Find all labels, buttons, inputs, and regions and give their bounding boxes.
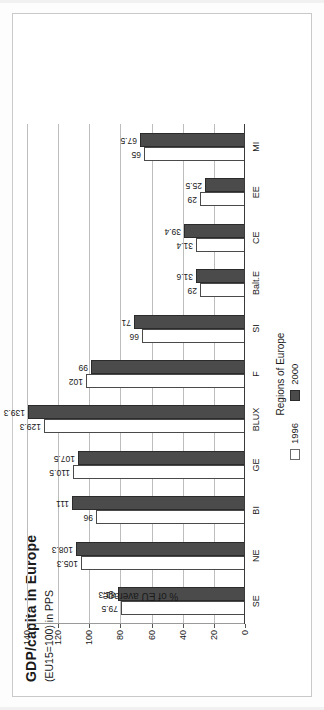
chart-legend: 1996 2000 [289, 364, 300, 460]
rotated-chart-wrapper: GDP/capita in Europe (EU15=100) in PPS 0… [12, 13, 312, 697]
x-axis-category-CE: CE [251, 215, 277, 260]
y-axis-tick-mark [214, 624, 215, 628]
x-axis-category-SI: SI [251, 306, 277, 351]
plot-inner: 020406080100120140 79.581.3105.3108.3961… [27, 124, 245, 624]
plot-area: 020406080100120140 79.581.3105.3108.3961… [27, 124, 245, 624]
bar-value-label: 99 [78, 363, 87, 373]
bar-group: 105.3108.3 [27, 533, 245, 578]
bar-value-label: 111 [56, 499, 69, 509]
bar-value-label: 25.5 [186, 181, 203, 191]
bar-value-label: 29 [187, 195, 196, 205]
x-axis-category-Balt.E: Balt.E [251, 260, 277, 305]
x-axis-category-BLUX: BLUX [251, 397, 277, 442]
bar-group: 6567.5 [27, 124, 245, 169]
bar-value-label: 108.3 [52, 545, 73, 555]
y-axis-tick-label: 100 [84, 630, 94, 645]
y-axis-tick-mark [58, 624, 59, 628]
bar-2000-SI: 71 [134, 315, 245, 329]
y-axis-tick-label: 80 [115, 630, 125, 640]
y-axis-line [27, 623, 245, 624]
bar-2000-Balt.E: 31.6 [196, 269, 245, 283]
bar-1996-Balt.E: 29 [200, 283, 245, 297]
bar-value-label: 107.5 [53, 454, 74, 464]
bar-2000-BLUX: 139.3 [28, 405, 245, 419]
bar-1996-BLUX: 129.3 [44, 419, 245, 433]
bar-value-label: 96 [83, 513, 92, 523]
bar-value-label: 129.3 [19, 422, 40, 432]
scanned-page: GDP/capita in Europe (EU15=100) in PPS 0… [0, 0, 324, 710]
bar-value-label: 39.4 [164, 227, 181, 237]
bar-value-label: 102 [69, 377, 83, 387]
bar-2000-EE: 25.5 [205, 178, 245, 192]
legend-label-1996: 1996 [289, 423, 300, 444]
bar-1996-SI: 66 [142, 329, 245, 343]
legend-item-2000: 2000 [289, 364, 300, 401]
x-axis-category-SE: SE [251, 579, 277, 624]
bar-value-label: 65 [131, 150, 140, 160]
y-axis-tick-label: 0 [240, 630, 250, 635]
x-axis-category-EE: EE [251, 169, 277, 214]
x-axis-category-F: F [251, 351, 277, 396]
bar-2000-BI: 111 [72, 496, 245, 510]
x-axis-category-MI: MI [251, 124, 277, 169]
bar-1996-F: 102 [86, 374, 245, 388]
y-axis-tick-mark [245, 624, 246, 628]
bar-group: 110.5107.5 [27, 442, 245, 487]
x-axis-category-labels: SENEBIGEBLUXFSIBalt.ECEEEMI [251, 124, 277, 624]
y-axis-tick-mark [183, 624, 184, 628]
bar-2000-MI: 67.5 [140, 133, 245, 147]
x-axis-category-NE: NE [251, 533, 277, 578]
scan-edge-top [0, 0, 324, 3]
bar-2000-F: 99 [91, 360, 245, 374]
bar-value-label: 29 [187, 286, 196, 296]
bar-1996-CE: 31.4 [196, 238, 245, 252]
bar-series-container: 79.581.3105.3108.396111110.5107.5129.313… [27, 124, 245, 624]
bar-group: 10299 [27, 351, 245, 396]
y-axis-tick-mark [152, 624, 153, 628]
legend-swatch-2000 [290, 390, 300, 401]
y-axis-tick-label: 140 [22, 630, 32, 645]
bar-2000-CE: 39.4 [184, 224, 245, 238]
bar-value-label: 139.3 [4, 408, 25, 418]
bar-1996-SE: 79.5 [121, 601, 245, 615]
bar-group: 6671 [27, 306, 245, 351]
chart-frame: GDP/capita in Europe (EU15=100) in PPS 0… [12, 13, 312, 697]
y-axis-tick-mark [27, 624, 28, 628]
x-axis-category-BI: BI [251, 488, 277, 533]
bar-value-label: 79.5 [102, 604, 119, 614]
bar-1996-GE: 110.5 [73, 465, 245, 479]
bar-group: 129.3139.3 [27, 397, 245, 442]
x-axis-category-GE: GE [251, 442, 277, 487]
bar-1996-BI: 96 [96, 510, 245, 524]
legend-swatch-1996 [290, 449, 300, 460]
bar-value-label: 31.4 [177, 241, 194, 251]
y-axis-tick-mark [120, 624, 121, 628]
x-axis-title: Regions of Europe [275, 124, 286, 624]
y-axis-tick-label: 20 [209, 630, 219, 640]
legend-item-1996: 1996 [289, 423, 300, 460]
y-axis-title: % of EU average [61, 591, 221, 602]
bar-2000-GE: 107.5 [78, 451, 245, 465]
y-axis-tick-label: 40 [178, 630, 188, 640]
bar-1996-NE: 105.3 [81, 556, 245, 570]
bar-group: 31.439.4 [27, 215, 245, 260]
legend-label-2000: 2000 [289, 364, 300, 385]
bar-value-label: 66 [130, 332, 139, 342]
y-axis-tick-label: 120 [53, 630, 63, 645]
bar-group: 2925.5 [27, 169, 245, 214]
bar-value-label: 67.5 [120, 136, 137, 146]
bar-value-label: 105.3 [57, 559, 78, 569]
bar-value-label: 71 [122, 318, 131, 328]
y-axis-tick-mark [89, 624, 90, 628]
bar-1996-MI: 65 [144, 147, 245, 161]
bar-1996-EE: 29 [200, 192, 245, 206]
y-axis-tick-label: 60 [147, 630, 157, 640]
bar-group: 2931.6 [27, 260, 245, 305]
bar-value-label: 110.5 [49, 468, 70, 478]
bar-group: 96111 [27, 488, 245, 533]
bar-2000-NE: 108.3 [76, 542, 245, 556]
x-axis-line [244, 124, 245, 624]
bar-value-label: 31.6 [176, 272, 193, 282]
